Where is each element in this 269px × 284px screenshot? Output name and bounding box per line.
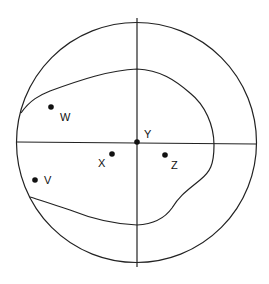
label-w: W	[60, 111, 71, 123]
label-z: Z	[171, 159, 178, 171]
label-x: X	[98, 157, 106, 169]
point-z	[162, 152, 168, 158]
diagram-canvas: W Y X Z V	[0, 0, 269, 284]
point-y	[134, 139, 140, 145]
point-v	[32, 177, 38, 183]
label-y: Y	[144, 128, 152, 140]
label-v: V	[44, 174, 52, 186]
region-boundary	[21, 69, 214, 225]
point-x	[109, 151, 115, 157]
point-w	[48, 104, 54, 110]
